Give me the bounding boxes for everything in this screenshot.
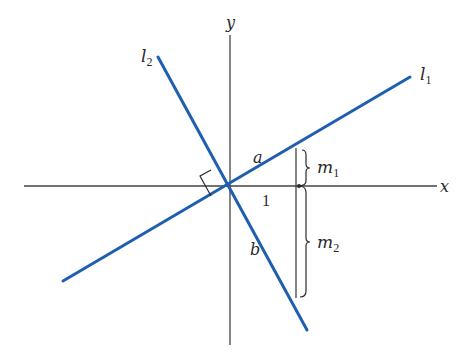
point-a-label: a [253, 148, 263, 167]
line-l2 [158, 57, 307, 330]
brace-m1 [298, 150, 310, 186]
perpendicular-lines-diagram: y x l2 l1 a b 1 m1 m2 [0, 0, 472, 359]
x-axis-label: x [440, 177, 449, 196]
line-l1 [63, 77, 410, 281]
label-m1: m1 [317, 157, 339, 180]
point-b-label: b [250, 240, 260, 259]
label-l1: l1 [420, 64, 431, 87]
right-angle-marker [200, 170, 211, 196]
unit-label: 1 [262, 192, 270, 209]
label-l2: l2 [141, 46, 152, 69]
y-axis-label: y [225, 13, 236, 32]
brace-m2 [298, 186, 310, 297]
label-m2: m2 [317, 232, 339, 255]
brace-junction [297, 184, 301, 188]
